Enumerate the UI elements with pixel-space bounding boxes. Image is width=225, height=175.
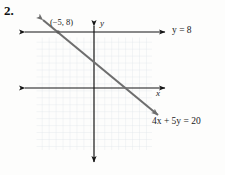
- horizontal-line-equation-label: y = 8: [172, 25, 192, 35]
- intersection-point-marker: [56, 30, 60, 34]
- diagonal-line-equation-label: 4x + 5y = 20: [152, 116, 201, 126]
- x-axis-label: x: [156, 88, 160, 98]
- y-axis-label: y: [100, 18, 104, 28]
- intersection-point-label: (−5, 8): [50, 17, 73, 27]
- graph-figure: 2.: [0, 0, 225, 175]
